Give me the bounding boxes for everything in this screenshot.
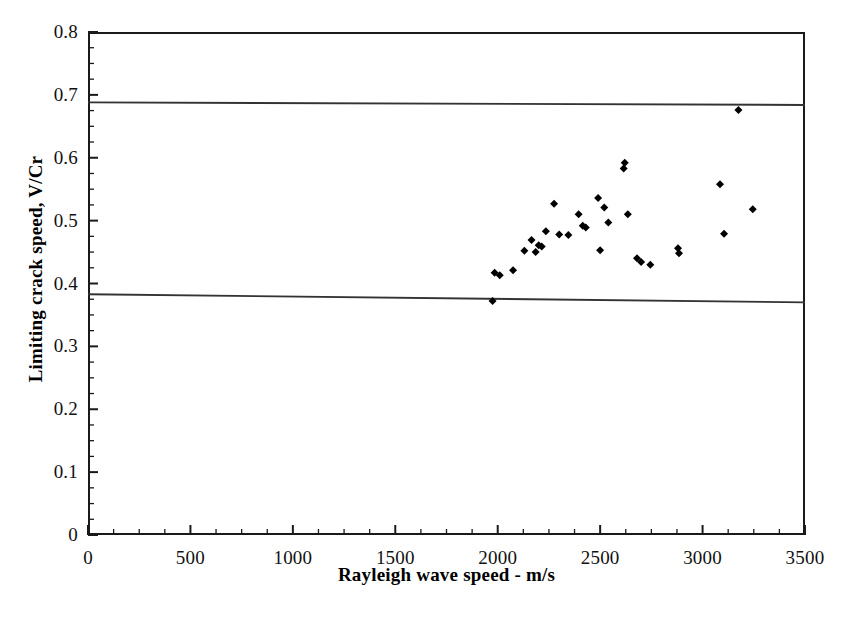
plot-area (88, 32, 805, 535)
y-tick-label: 0.1 (10, 461, 78, 483)
scatter-chart-figure: 00.10.20.30.40.50.60.70.8 05001000150020… (0, 0, 842, 621)
y-tick-label: 0 (10, 524, 78, 546)
x-axis-title: Rayleigh wave speed - m/s (88, 564, 805, 586)
y-axis-title: Limiting crack speed, V/Cr (25, 79, 47, 459)
y-tick-label: 0.8 (10, 21, 78, 43)
